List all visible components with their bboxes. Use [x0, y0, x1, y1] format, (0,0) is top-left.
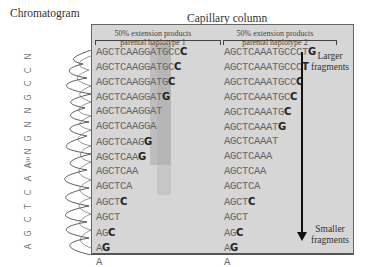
fragment-prefix: AGCTCAA: [224, 150, 266, 162]
position-marker: 330: [24, 157, 32, 168]
base-call: N: [24, 50, 33, 64]
fragment-terminal-base: C: [168, 76, 175, 87]
fragment-row: AGCTCAAGGATGC: [96, 74, 187, 89]
fragment-terminal-base: C: [174, 61, 181, 72]
base-call: C: [24, 186, 33, 200]
smaller-label-line1: Smaller: [306, 224, 354, 235]
fragment-terminal-base: G: [162, 91, 170, 102]
fragment-terminal-base: G: [278, 121, 286, 132]
fragment-prefix: AGCTCAAGGATGC: [96, 61, 174, 73]
fragment-row: AG: [224, 240, 316, 255]
fragment-prefix: AGCTCAAATGC: [224, 91, 290, 103]
fragment-terminal-base: C: [284, 106, 291, 117]
fragment-prefix: AGCT: [224, 196, 248, 208]
haplotype2-header-line1: 50% extension products: [215, 29, 335, 38]
haplotype1-header-line1: 50% extension products: [93, 29, 213, 38]
fragment-row: AGCTCAAGGATG: [96, 89, 187, 104]
base-call: T: [24, 199, 33, 213]
fragment-prefix: AGCTCAAG: [96, 136, 144, 148]
fragment-row: AG: [96, 240, 187, 255]
fragment-prefix: AG: [224, 227, 236, 239]
fragment-prefix: AGCTCAAATGCCCT: [224, 46, 308, 58]
fragment-row: AGCTCAAGGAT: [96, 104, 187, 119]
fragment-terminal-base: T: [156, 105, 162, 117]
fragment-terminal-base: C: [290, 91, 297, 102]
larger-label-line1: Larger: [308, 51, 352, 62]
base-call: A: [24, 240, 33, 254]
fragment-prefix: AGCTC: [224, 180, 254, 192]
fragment-row: AGCTCAAGGATGCCC: [96, 44, 187, 59]
fragment-row: AGCTCAAGG: [96, 134, 187, 149]
fragment-row: AGCTCAA: [96, 164, 187, 179]
base-call: G: [24, 131, 33, 145]
base-call: G: [24, 90, 33, 104]
base-call: G: [24, 226, 33, 240]
fragment-terminal-base: G: [102, 242, 110, 253]
fragment-terminal-base: G: [144, 136, 152, 147]
fragment-terminal-base: T: [114, 211, 120, 223]
base-call: C: [24, 213, 33, 227]
fragment-prefix: AGCTCAAGGA: [96, 105, 156, 117]
base-call: A: [24, 172, 33, 186]
fragment-prefix: AGCTCAAAT: [224, 121, 278, 133]
fragment-prefix: AGCTCA: [96, 165, 132, 177]
fragment-terminal-base: C: [248, 196, 255, 207]
fragment-row: AGCTCAAGGATGCC: [96, 59, 187, 74]
haplotype1-fragment-list: AGCTCAAGGATGCCCAGCTCAAGGATGCCAGCTCAAGGAT…: [96, 44, 187, 267]
base-call: C: [24, 77, 33, 91]
fragment-prefix: AGC: [224, 211, 242, 223]
fragment-terminal-base: C: [180, 46, 187, 57]
fragment-terminal-base: A: [132, 165, 138, 177]
fragment-prefix: AGCTC: [96, 180, 126, 192]
fragment-terminal-base: A: [266, 150, 272, 162]
fragment-terminal-base: A: [126, 180, 132, 192]
size-arrow: [301, 52, 303, 236]
fragment-terminal-base: C: [108, 227, 115, 238]
fragment-row: AGCTCAAGGA: [96, 119, 187, 134]
fragment-prefix: AGCTCAAA: [224, 135, 272, 147]
fragment-prefix: AGCTCAAATG: [224, 106, 284, 118]
fragment-prefix: AGCTCAA: [96, 151, 138, 163]
fragment-prefix: AGCTCAAATGCCC: [224, 61, 302, 73]
chromatogram-title: Chromatogram: [10, 7, 80, 19]
larger-label-line2: fragments: [308, 62, 352, 73]
capillary-column-panel: 50% extension products parental haplotyp…: [91, 24, 354, 255]
fragment-row: A: [96, 255, 187, 267]
smaller-fragments-label: Smaller fragments: [306, 224, 354, 246]
fragment-prefix: AGCTCAAGGAT: [96, 91, 162, 103]
fragment-terminal-base: A: [96, 256, 102, 267]
fragment-terminal-base: T: [272, 135, 278, 147]
fragment-terminal-base: A: [224, 256, 230, 267]
fragment-prefix: AGCTCAAGGATG: [96, 76, 168, 88]
fragment-terminal-base: A: [260, 165, 266, 177]
chromatogram-trace: [35, 50, 93, 255]
smaller-label-line2: fragments: [306, 235, 354, 246]
fragment-row: AGCTCA: [96, 179, 187, 194]
capillary-column-title: Capillary column: [187, 12, 267, 24]
fragment-terminal-base: A: [254, 180, 260, 192]
fragment-prefix: AGCT: [96, 196, 120, 208]
fragment-terminal-base: T: [242, 211, 248, 223]
fragment-prefix: AGCTCAAGG: [96, 120, 150, 132]
fragment-row: A: [224, 255, 316, 267]
fragment-terminal-base: A: [150, 120, 156, 132]
fragment-prefix: AGCTCA: [224, 165, 260, 177]
fragment-row: AGCT: [96, 210, 187, 225]
fragment-row: AGC: [96, 225, 187, 240]
base-call: N: [24, 104, 33, 118]
fragment-prefix: AGC: [96, 211, 114, 223]
base-call: C: [24, 63, 33, 77]
fragment-terminal-base: C: [120, 196, 127, 207]
fragment-prefix: AG: [96, 227, 108, 239]
fragment-terminal-base: G: [230, 242, 238, 253]
base-call: N: [24, 118, 33, 132]
fragment-prefix: AGCTCAAGGATGCC: [96, 46, 180, 58]
fragment-prefix: AGCTCAAATGCC: [224, 76, 296, 88]
fragment-terminal-base: G: [138, 151, 146, 162]
fragment-row: AGCTCAAG: [96, 149, 187, 164]
larger-fragments-label: Larger fragments: [308, 51, 352, 73]
fragment-terminal-base: C: [236, 227, 243, 238]
fragment-row: AGCTC: [96, 194, 187, 209]
